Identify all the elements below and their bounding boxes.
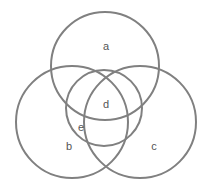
region-label-c: c — [151, 140, 157, 152]
circle-b — [16, 66, 128, 178]
region-label-e: e — [78, 121, 84, 133]
venn-diagram-figure: a d e b c — [0, 0, 209, 190]
venn-diagram-canvas: a d e b c — [0, 0, 209, 190]
region-label-b: b — [66, 140, 72, 152]
region-label-d: d — [103, 98, 109, 110]
region-label-a: a — [103, 40, 110, 52]
